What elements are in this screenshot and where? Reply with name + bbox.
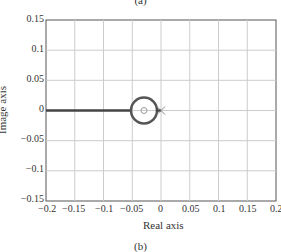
x-tick: −0.1 — [95, 203, 113, 214]
x-axis-label: Real axis — [143, 219, 184, 231]
y-axis-label: Image axis — [0, 86, 8, 134]
x-tick: −0.2 — [38, 203, 56, 214]
y-tick: 0.1 — [32, 43, 45, 54]
x-tick: −0.15 — [62, 203, 85, 214]
root-locus-plot — [0, 0, 281, 252]
y-tick: −0.05 — [21, 133, 44, 144]
y-tick: 0.15 — [27, 13, 45, 24]
y-tick: 0 — [39, 103, 44, 114]
x-tick: −0.05 — [120, 203, 143, 214]
x-tick: 0.2 — [270, 203, 281, 214]
x-tick: 0.15 — [239, 203, 257, 214]
x-tick: 0.1 — [213, 203, 226, 214]
caption-bottom: (b) — [0, 240, 281, 252]
y-tick: −0.1 — [26, 163, 44, 174]
y-tick: 0.05 — [27, 73, 45, 84]
x-tick: 0.05 — [182, 203, 200, 214]
x-tick: 0 — [158, 203, 163, 214]
